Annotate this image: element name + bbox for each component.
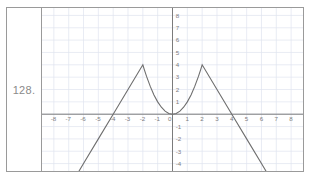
x-tick-label: 2: [200, 115, 204, 122]
x-tick-label: -5: [95, 115, 101, 122]
coordinate-plane-svg: -8-7-6-5-4-3-2-1012345678-4-3-2-11234567…: [42, 8, 303, 171]
graph-panel: -8-7-6-5-4-3-2-1012345678-4-3-2-11234567…: [42, 8, 303, 171]
y-tick-label: 4: [176, 61, 180, 68]
y-tick-label: 5: [176, 49, 180, 56]
x-tick-label: -8: [51, 115, 57, 122]
x-tick-label: 0: [168, 115, 172, 122]
x-tick-label: 1: [186, 115, 190, 122]
x-tick-label: 7: [275, 115, 279, 122]
x-tick-label: -3: [125, 115, 131, 122]
worksheet-page: 128. -8-7-6-5-4-3-2-1012345678-4-3-2-112…: [0, 0, 311, 180]
page-header-faint-text: [196, 0, 308, 6]
x-tick-label: 5: [245, 115, 249, 122]
y-tick-label: 1: [176, 98, 180, 105]
problem-number: 128.: [8, 82, 40, 98]
y-tick-label: 8: [176, 12, 180, 19]
y-tick-label: 7: [176, 24, 180, 31]
x-tick-label: -6: [80, 115, 86, 122]
x-tick-label: -1: [154, 115, 160, 122]
x-tick-label: 8: [289, 115, 293, 122]
y-tick-label: -3: [176, 148, 182, 155]
y-tick-label: -1: [176, 123, 182, 130]
y-tick-label: 2: [176, 86, 180, 93]
x-tick-label: -7: [65, 115, 71, 122]
y-tick-label: 3: [176, 73, 180, 80]
y-tick-label: 6: [176, 36, 180, 43]
x-tick-label: -2: [140, 115, 146, 122]
x-tick-label: 3: [215, 115, 219, 122]
x-tick-label: 6: [260, 115, 264, 122]
y-tick-label: -4: [176, 160, 182, 167]
y-tick-label: -2: [176, 135, 182, 142]
